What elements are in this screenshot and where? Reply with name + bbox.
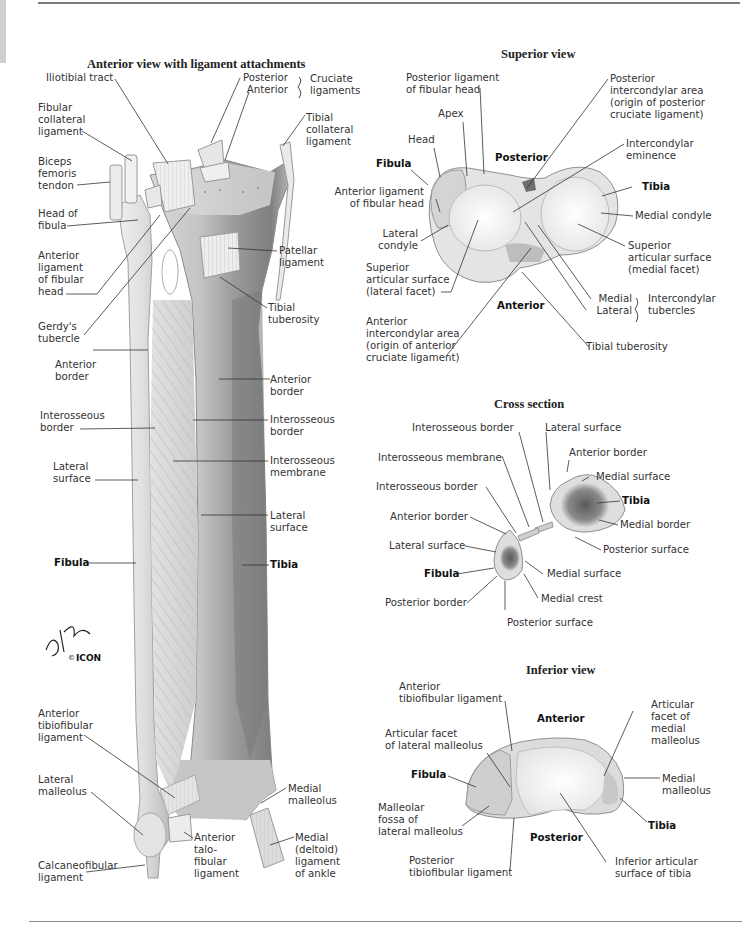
label-fibula-xs: Fibula: [424, 568, 459, 580]
label-posterior-surface-tibia-xs: Posterior surface: [603, 544, 689, 556]
label-lateral-surface-tibia-xs: Lateral surface: [545, 422, 621, 434]
label-medial-surface-fibula-xs: Medial surface: [547, 568, 621, 580]
label-articular-facet-medial-malleolus: Articular facet of medial malleolus: [651, 699, 700, 747]
cross-section-drawing: [494, 475, 625, 580]
label-medial-deltoid-ligament: Medial (deltoid) ligament of ankle: [295, 832, 340, 880]
copyright-mark: ©: [68, 654, 75, 662]
inferior-view-title: Inferior view: [526, 663, 596, 678]
label-fibula-anterior: Fibula: [54, 557, 89, 569]
label-malleolar-fossa: Malleolar fossa of lateral malleolus: [378, 802, 463, 838]
label-medial-border-xs: Medial border: [620, 519, 690, 531]
label-anterior-cruciate: Anterior: [226, 84, 288, 96]
anterior-view-title: Anterior view with ligament attachments: [87, 57, 305, 72]
label-anterior-tibiofibular-inferior: Anterior tibiofibular ligament: [399, 681, 502, 705]
label-anterior-inferior: Anterior: [537, 713, 584, 725]
label-tibial-tuberosity: Tibial tuberosity: [268, 302, 320, 326]
label-posterior-inferior: Posterior: [530, 832, 583, 844]
label-interosseous-membrane-xs: Interosseous membrane: [378, 452, 502, 464]
label-lateral-surface-tibia: Lateral surface: [270, 510, 308, 534]
label-apex: Apex: [438, 108, 464, 120]
label-interosseous-membrane: Interosseous membrane: [270, 455, 335, 479]
publisher-logo: ICON: [76, 653, 101, 663]
label-biceps-femoris-tendon: Biceps femoris tendon: [38, 156, 76, 192]
label-tibial-tuberosity-superior: Tibial tuberosity: [586, 341, 668, 353]
label-lateral-surface-fibula: Lateral surface: [53, 461, 91, 485]
label-lateral-tubercle: Lateral: [570, 305, 632, 317]
label-tibia-inferior: Tibia: [648, 820, 676, 832]
label-medial-malleolus: Medial malleolus: [288, 783, 337, 807]
label-intercondylar-tubercles: Intercondylar tubercles: [648, 293, 716, 317]
label-anterior-superior: Anterior: [497, 300, 544, 312]
artist-signature: © ICON: [38, 614, 118, 674]
label-iliotibial-tract: Iliotibial tract: [46, 72, 113, 84]
label-superior-articular-medial-facet: Superior articular surface (medial facet…: [628, 240, 711, 276]
label-head: Head: [408, 134, 435, 146]
label-inferior-articular-surface: Inferior articular surface of tibia: [615, 856, 698, 880]
label-tibia-xs: Tibia: [622, 495, 650, 507]
atlas-plate: © ICON Anterior view with ligament attac…: [0, 0, 750, 929]
label-anterior-tibiofibular-ligament: Anterior tibiofibular ligament: [38, 708, 93, 744]
label-posterior-superior: Posterior: [495, 152, 548, 164]
label-anterior-border-fibula-xs: Anterior border: [390, 511, 468, 523]
label-tibial-collateral-ligament: Tibial collateral ligament: [306, 112, 353, 148]
label-cruciate-ligaments: Cruciate ligaments: [310, 73, 360, 97]
label-intercondylar-eminence: Intercondylar eminence: [626, 138, 694, 162]
label-lateral-surface-fibula-xs: Lateral surface: [389, 540, 465, 552]
label-lateral-condyle: Lateral condyle: [360, 228, 418, 252]
label-medial-tubercle: Medial: [570, 293, 632, 305]
label-medial-surface-tibia-xs: Medial surface: [596, 471, 670, 483]
signature-icon: © ICON: [38, 614, 118, 674]
label-superior-articular-lateral-facet: Superior articular surface (lateral face…: [366, 262, 449, 298]
label-gerdys-tubercle: Gerdy's tubercle: [38, 321, 80, 345]
label-anterior-ligament-fibular-head: Anterior ligament of fibular head: [38, 250, 84, 298]
label-fibula-superior: Fibula: [376, 158, 411, 170]
label-fibular-collateral-ligament: Fibular collateral ligament: [38, 102, 85, 138]
superior-view-drawing: [429, 167, 618, 282]
label-interosseous-border-tibia: Interosseous border: [270, 414, 335, 438]
label-calcaneofibular-ligament: Calcaneofibular ligament: [38, 860, 118, 884]
label-anterior-intercondylar-area: Anterior intercondylar area (origin of a…: [366, 316, 460, 364]
label-interosseous-border-top: Interosseous border: [412, 422, 514, 434]
label-lateral-malleolus: Lateral malleolus: [38, 774, 87, 798]
label-anterior-ligament-fibular-head-superior: Anterior ligament of fibular head: [300, 186, 424, 210]
cross-section-title: Cross section: [494, 397, 564, 412]
label-articular-facet-lateral-malleolus: Articular facet of lateral malleolus: [385, 728, 483, 752]
label-interosseous-border-fibula-xs: Interosseous border: [376, 481, 478, 493]
label-anterior-border-fibula: Anterior border: [55, 359, 96, 383]
label-anterior-border-tibia: Anterior border: [270, 374, 311, 398]
label-posterior-border-xs: Posterior border: [385, 597, 467, 609]
label-posterior-surface-fibula-xs: Posterior surface: [507, 617, 593, 629]
label-tibia-anterior: Tibia: [270, 559, 298, 571]
label-anterior-border-tibia-xs: Anterior border: [569, 447, 647, 459]
label-medial-malleolus-inferior: Medial malleolus: [662, 773, 711, 797]
label-medial-crest-xs: Medial crest: [541, 593, 603, 605]
superior-view-title: Superior view: [501, 47, 575, 62]
label-posterior-cruciate: Posterior: [226, 72, 288, 84]
interosseous-membrane-drawing: [150, 250, 198, 790]
label-posterior-ligament-fibular-head: Posterior ligament of fibular head: [406, 72, 499, 96]
label-head-of-fibula: Head of fibula: [38, 208, 78, 232]
label-patellar-ligament: Patellar ligament: [279, 245, 324, 269]
label-posterior-intercondylar-area: Posterior intercondylar area (origin of …: [610, 73, 705, 121]
label-posterior-tibiofibular-ligament: Posterior tibiofibular ligament: [409, 855, 512, 879]
label-tibia-superior: Tibia: [642, 181, 670, 193]
label-anterior-talofibular-ligament: Anterior talo- fibular ligament: [194, 832, 239, 880]
label-interosseous-border-fibula: Interosseous border: [40, 410, 105, 434]
label-fibula-inferior: Fibula: [411, 769, 446, 781]
label-medial-condyle: Medial condyle: [635, 210, 712, 222]
inferior-view-drawing: [466, 738, 624, 818]
